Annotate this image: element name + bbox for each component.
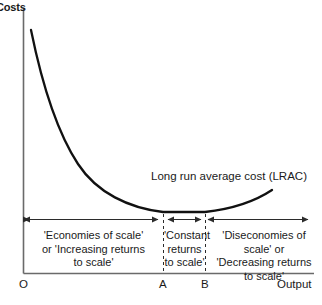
region-constant-line-2: returns bbox=[164, 243, 205, 257]
region-label-diseconomies: 'Diseconomies of scale' or 'Decreasing r… bbox=[208, 229, 320, 283]
region-economies-line-3: to scale' bbox=[26, 256, 161, 270]
x-tick-label-a: A bbox=[159, 278, 167, 290]
region-diseconomies-line-4: to scale' bbox=[208, 270, 320, 284]
region-economies-line-1: 'Economies of scale' bbox=[26, 229, 161, 243]
region-diseconomies-line-1: 'Diseconomies of bbox=[208, 229, 320, 243]
lrac-curve bbox=[31, 30, 272, 212]
region-diseconomies-line-3: 'Decreasing returns bbox=[208, 256, 320, 270]
region-economies-line-2: or 'Increasing returns bbox=[26, 243, 161, 257]
region-constant-line-1: 'Constant bbox=[164, 229, 205, 243]
lrac-curve-label: Long run average cost (LRAC) bbox=[151, 170, 307, 182]
region-label-constant: 'Constant returns to scale' bbox=[164, 229, 205, 270]
region-diseconomies-line-2: scale' or bbox=[208, 243, 320, 257]
x-tick-label-origin: O bbox=[19, 278, 28, 290]
lrac-chart: Costs Output O A B Long run average cost… bbox=[0, 0, 322, 305]
region-label-economies: 'Economies of scale' or 'Increasing retu… bbox=[26, 229, 161, 270]
region-constant-line-3: to scale' bbox=[164, 256, 205, 270]
y-axis-label: Costs bbox=[0, 1, 26, 13]
